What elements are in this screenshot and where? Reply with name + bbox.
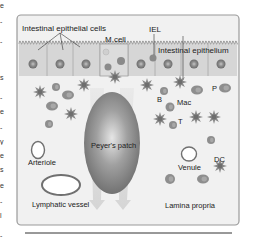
edge-text-fragment: e	[0, 182, 6, 189]
m-cell-vesicle	[103, 49, 109, 55]
edge-text-fragment: e	[0, 2, 6, 9]
dendritic-cell-nucleus	[218, 164, 223, 169]
plasma-cell-nucleus	[67, 93, 72, 98]
label-peyers-patch: Peyer's patch	[91, 141, 136, 150]
t-cell-nucleus	[172, 123, 176, 127]
dendritic-cell-nucleus	[69, 112, 74, 117]
label-macrophage: Mac	[177, 98, 191, 107]
nucleus	[190, 60, 199, 69]
plasma-cell-nucleus	[202, 177, 207, 182]
diagram-svg: Intestinal epithelial cells M cell IEL I…	[0, 0, 253, 246]
dendritic-cell-nucleus	[194, 115, 199, 120]
lymphocyte-nucleus	[169, 176, 174, 182]
label-intestinal-epithelium: Intestinal epithelium	[158, 46, 229, 55]
edge-text-fragment: e	[0, 152, 6, 159]
lymphatic-vessel	[42, 175, 80, 195]
dendritic-cell-nucleus	[145, 83, 150, 88]
b-cell-nucleus	[163, 89, 167, 93]
edge-text-fragment: -	[0, 38, 6, 45]
iel-cell	[150, 55, 157, 62]
edge-text-fragment: -	[0, 124, 6, 131]
label-plasma-cell: P	[212, 84, 217, 93]
nucleus	[217, 60, 226, 69]
label-iel: IEL	[149, 25, 162, 34]
venule	[182, 147, 197, 161]
label-epithelial-cells: Intestinal epithelial cells	[22, 24, 106, 33]
plasma-cell-nucleus	[196, 88, 201, 93]
dendritic-cell-nucleus	[158, 117, 163, 122]
plasma-cell-nucleus	[224, 86, 229, 91]
label-venule: Venule	[178, 163, 201, 172]
edge-text-fragment: s	[0, 74, 6, 81]
m-cell-lymphocyte	[105, 64, 112, 71]
label-lamina-propria: Lamina propria	[165, 201, 216, 210]
label-dc: DC	[214, 155, 225, 164]
m-cell-lymphocyte	[117, 57, 125, 65]
nucleus	[56, 60, 65, 69]
dendritic-cell-nucleus	[178, 80, 183, 85]
dendritic-cell-nucleus	[38, 90, 43, 95]
edge-text-fragment: -	[0, 198, 6, 205]
edge-text-fragment: -	[0, 94, 6, 101]
lymphocyte-nucleus	[210, 138, 214, 142]
lymphocyte-nucleus	[55, 85, 59, 89]
edge-text-fragment: l	[0, 212, 6, 219]
edge-text-fragment: -	[0, 18, 6, 25]
label-m-cell: M cell	[105, 35, 126, 44]
label-b-cell: B	[157, 95, 162, 104]
label-lymphatic-vessel: Lymphatic vessel	[32, 200, 90, 209]
dendritic-cell-nucleus	[113, 75, 118, 80]
plasma-cell-nucleus	[51, 104, 56, 109]
nucleus	[82, 60, 91, 69]
label-t-cell: T	[178, 117, 183, 126]
nucleus	[164, 60, 173, 69]
edge-text-fragment: s	[0, 166, 6, 173]
nucleus	[29, 60, 38, 69]
edge-text-fragment: y	[0, 138, 6, 145]
edge-text-fragment: -	[0, 232, 6, 239]
dendritic-cell-nucleus	[82, 83, 87, 88]
intestinal-mucosa-diagram: Intestinal epithelial cells M cell IEL I…	[0, 0, 253, 246]
lymphocyte-nucleus	[48, 122, 52, 126]
edge-text-fragment: e	[0, 108, 6, 115]
dendritic-cell-nucleus	[212, 115, 217, 120]
macrophage-nucleus	[169, 105, 173, 110]
arteriole	[32, 142, 45, 159]
label-arteriole: Arteriole	[28, 158, 56, 167]
nucleus	[137, 60, 146, 69]
